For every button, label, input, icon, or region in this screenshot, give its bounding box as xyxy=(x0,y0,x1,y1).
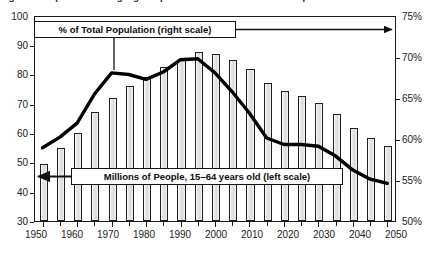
x-tick-1990: 1990 xyxy=(160,230,200,240)
x-tick-mark-2020 xyxy=(284,222,285,227)
bar-1975 xyxy=(126,86,134,221)
x-tick-mark-2010 xyxy=(249,222,250,227)
bar-2015 xyxy=(264,83,272,221)
bar-2005 xyxy=(229,60,237,221)
bar-1980 xyxy=(143,77,151,221)
bar-2030 xyxy=(315,103,323,221)
tick-right-60 xyxy=(396,140,400,141)
x-tick-mark-1990 xyxy=(181,222,182,227)
x-tick-2050: 2050 xyxy=(376,230,416,240)
y-left-tick-80: 80 xyxy=(0,70,28,80)
tick-right-70 xyxy=(396,58,400,59)
x-tick-mark-2015 xyxy=(267,222,268,226)
x-tick-1960: 1960 xyxy=(52,230,92,240)
y-left-tick-70: 70 xyxy=(0,100,28,110)
y-right-tick-65: 65% xyxy=(402,94,436,104)
bar-2050 xyxy=(384,146,392,221)
x-tick-mark-1995 xyxy=(198,222,199,226)
bar-2025 xyxy=(298,96,306,221)
figure-title-cropped: Figure 2. Japan's Working-Age Population… xyxy=(0,0,437,2)
x-tick-mark-2000 xyxy=(215,222,216,227)
x-tick-mark-1960 xyxy=(77,222,78,227)
x-tick-mark-2025 xyxy=(301,222,302,226)
bar-1950 xyxy=(40,164,48,221)
x-tick-mark-2040 xyxy=(353,222,354,227)
x-tick-1970: 1970 xyxy=(88,230,128,240)
x-tick-2010: 2010 xyxy=(232,230,272,240)
x-tick-mark-2045 xyxy=(370,222,371,226)
x-tick-mark-2030 xyxy=(318,222,319,227)
bar-1995 xyxy=(195,52,203,221)
y-left-tick-100: 100 xyxy=(0,12,28,22)
bar-2020 xyxy=(281,91,289,221)
bar-2000 xyxy=(212,54,220,221)
x-tick-mark-1965 xyxy=(94,222,95,226)
callout-millions-of-people: Millions of People, 15–64 years old (lef… xyxy=(71,168,343,185)
y-left-tick-60: 60 xyxy=(0,129,28,139)
x-tick-mark-1980 xyxy=(146,222,147,227)
x-tick-1980: 1980 xyxy=(124,230,164,240)
x-tick-mark-2005 xyxy=(232,222,233,226)
chart-figure: Figure 2. Japan's Working-Age Population… xyxy=(0,0,437,258)
x-tick-mark-1950 xyxy=(43,222,44,227)
x-tick-mark-1985 xyxy=(163,222,164,226)
bar-1985 xyxy=(160,67,168,221)
y-left-tick-40: 40 xyxy=(0,188,28,198)
tick-left-30 xyxy=(30,222,34,223)
x-tick-2000: 2000 xyxy=(196,230,236,240)
bar-2040 xyxy=(350,128,358,221)
callout-percent-of-total-population: % of Total Population (right scale) xyxy=(34,21,236,38)
tick-right-65 xyxy=(396,99,400,100)
bars-container xyxy=(35,17,395,221)
y-right-tick-70: 70% xyxy=(402,53,436,63)
y-left-tick-30: 30 xyxy=(0,217,28,227)
y-right-tick-75: 75% xyxy=(402,12,436,22)
x-tick-mark-1955 xyxy=(60,222,61,226)
y-left-tick-90: 90 xyxy=(0,41,28,51)
x-tick-mark-1975 xyxy=(129,222,130,226)
bar-2010 xyxy=(246,69,254,221)
bar-1955 xyxy=(57,148,65,221)
y-right-tick-55: 55% xyxy=(402,176,436,186)
x-tick-mark-1970 xyxy=(112,222,113,227)
tick-right-55 xyxy=(396,181,400,182)
bar-1965 xyxy=(91,112,99,221)
y-right-tick-60: 60% xyxy=(402,135,436,145)
x-tick-2020: 2020 xyxy=(268,230,308,240)
x-tick-2040: 2040 xyxy=(340,230,380,240)
x-tick-mark-2050 xyxy=(387,222,388,227)
x-tick-2030: 2030 xyxy=(304,230,344,240)
y-right-tick-50: 50% xyxy=(402,217,436,227)
y-left-tick-50: 50 xyxy=(0,158,28,168)
bar-1990 xyxy=(177,60,185,221)
bar-1970 xyxy=(109,98,117,221)
plot-area xyxy=(34,16,396,222)
x-tick-mark-2035 xyxy=(336,222,337,226)
x-tick-1950: 1950 xyxy=(16,230,56,240)
bar-2045 xyxy=(367,138,375,221)
